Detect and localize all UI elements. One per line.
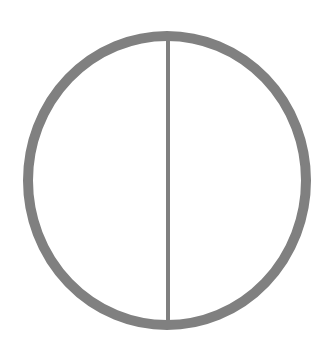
diagram-canvas xyxy=(0,0,333,351)
